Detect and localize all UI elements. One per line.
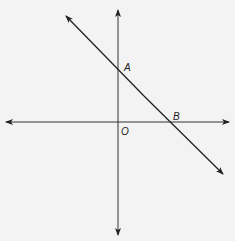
line-ab-up bbox=[66, 16, 144, 96]
line-ab-down bbox=[144, 96, 223, 174]
point-label-b: B bbox=[173, 111, 180, 122]
diagram-canvas: A B O bbox=[0, 0, 235, 241]
coordinate-plane: A B O bbox=[0, 0, 235, 241]
point-label-o: O bbox=[121, 126, 129, 137]
point-label-a: A bbox=[123, 62, 131, 73]
